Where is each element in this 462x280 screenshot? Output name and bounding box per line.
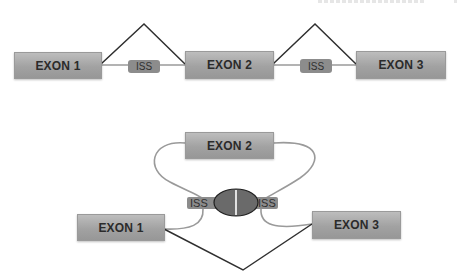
- splice-junction-1: [101, 24, 185, 64]
- intron-loop-right-lower: [261, 209, 312, 226]
- exon-label: EXON 2: [207, 58, 252, 72]
- bottom-iss-right-label: ISS: [258, 197, 276, 209]
- top-exon-3: EXON 3: [356, 51, 446, 79]
- intron-loop-left-lower: [164, 209, 203, 229]
- iss-label: ISS: [136, 61, 152, 72]
- top-exon-2: EXON 2: [185, 51, 274, 79]
- exon-label: EXON 1: [98, 221, 143, 235]
- splice-junction-2: [273, 24, 356, 64]
- iss-label: ISS: [308, 61, 324, 72]
- top-iss-1: ISS: [128, 60, 160, 73]
- bottom-iss-left-label: ISS: [190, 197, 208, 209]
- splice-junction-skip: [164, 224, 312, 270]
- bottom-exon-1: EXON 1: [77, 214, 165, 241]
- exon-label: EXON 1: [35, 59, 80, 73]
- bottom-exon-2: EXON 2: [185, 132, 274, 159]
- top-exon-1: EXON 1: [14, 52, 102, 79]
- exon-label: EXON 3: [378, 58, 423, 72]
- exon-label: EXON 3: [334, 218, 379, 232]
- exon-label: EXON 2: [207, 139, 252, 153]
- top-iss-2: ISS: [300, 59, 332, 73]
- exon-splicing-diagram: EXON 1 ISS EXON 2 ISS EXON 3 EXON 2 ISS …: [0, 0, 462, 280]
- bottom-exon-3: EXON 3: [312, 211, 401, 239]
